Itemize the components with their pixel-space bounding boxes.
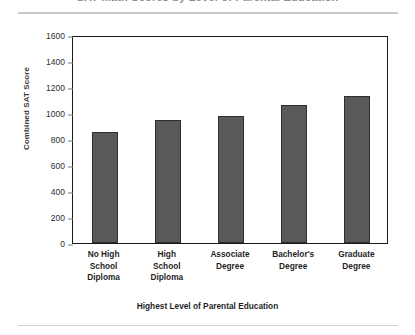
x-axis-tick-labels: No HighSchoolDiplomaHighSchoolDiplomaAss…: [72, 249, 388, 295]
y-tick-label: 1000: [46, 109, 65, 119]
x-tick-label: Bachelor'sDegree: [262, 249, 325, 272]
y-tick-mark: [68, 37, 73, 38]
bottom-divider-rule: [18, 325, 398, 326]
x-tick-label-line: Diploma: [72, 272, 135, 284]
bar: [281, 105, 307, 243]
x-tick-label-line: No High: [72, 249, 135, 261]
y-tick-mark: [68, 245, 73, 246]
y-axis-title: Combined SAT Score: [22, 29, 31, 189]
bar: [218, 116, 244, 243]
x-tick-label-line: School: [72, 261, 135, 273]
y-tick-mark: [68, 115, 73, 116]
x-tick-label: No HighSchoolDiploma: [72, 249, 135, 284]
plot-area: 16001400120010008006004002000: [72, 36, 388, 244]
y-tick-mark: [68, 219, 73, 220]
bar: [344, 96, 370, 243]
bar: [155, 120, 181, 243]
x-tick-label-line: Graduate: [325, 249, 388, 261]
y-tick-label: 200: [51, 213, 65, 223]
bar: [92, 132, 118, 243]
y-tick-mark: [68, 167, 73, 168]
x-tick-label-line: School: [135, 261, 198, 273]
y-tick-label: 1600: [46, 31, 65, 41]
x-tick-label: AssociateDegree: [198, 249, 261, 272]
y-tick-label: 600: [51, 161, 65, 171]
y-tick-label: 0: [60, 239, 65, 249]
x-tick-label-line: Degree: [198, 261, 261, 273]
y-tick-mark: [68, 141, 73, 142]
bar-chart-figure: Combined SAT Score 160014001200100080060…: [0, 0, 415, 335]
x-tick-label-line: Associate: [198, 249, 261, 261]
x-tick-label-line: High: [135, 249, 198, 261]
y-tick-mark: [68, 193, 73, 194]
x-tick-label-line: Bachelor's: [262, 249, 325, 261]
x-tick-label-line: Degree: [325, 261, 388, 273]
y-tick-mark: [68, 89, 73, 90]
x-axis-title: Highest Level of Parental Education: [0, 301, 415, 311]
x-tick-label-line: Degree: [262, 261, 325, 273]
y-tick-mark: [68, 63, 73, 64]
y-tick-label: 400: [51, 187, 65, 197]
y-tick-label: 800: [51, 135, 65, 145]
y-tick-label: 1400: [46, 57, 65, 67]
y-tick-label: 1200: [46, 83, 65, 93]
x-tick-label-line: Diploma: [135, 272, 198, 284]
x-tick-label: GraduateDegree: [325, 249, 388, 272]
x-tick-label: HighSchoolDiploma: [135, 249, 198, 284]
